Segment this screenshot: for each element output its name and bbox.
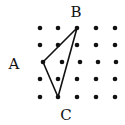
grid-dot [94, 77, 99, 82]
vertex-label-b: B [70, 3, 81, 21]
dot-grid [38, 26, 119, 100]
grid-dot [113, 95, 118, 100]
vertex-label-c: C [60, 106, 71, 124]
grid-dot [38, 95, 43, 100]
vertex-label-a: A [8, 55, 20, 73]
grid-dot [75, 95, 80, 100]
grid-dot [114, 60, 119, 65]
grid-dot [56, 77, 61, 82]
grid-dot [38, 26, 43, 31]
grid-dot [94, 26, 99, 31]
grid-dot [78, 60, 83, 65]
grid-dot [56, 26, 61, 31]
grid-dot [113, 77, 118, 82]
grid-dot [75, 43, 80, 48]
grid-dot [113, 43, 118, 48]
grid-dot [38, 77, 43, 82]
dot-grid-diagram: A B C [0, 0, 125, 125]
grid-dot [60, 60, 65, 65]
grid-dot [113, 26, 118, 31]
grid-dot [96, 60, 101, 65]
grid-dot [38, 43, 43, 48]
grid-dot [94, 43, 99, 48]
grid-dot [94, 95, 99, 100]
grid-dot [75, 77, 80, 82]
